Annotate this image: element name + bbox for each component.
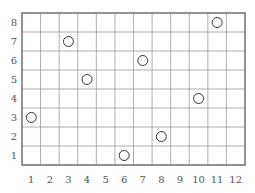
x-axis-tick-labels: 123456789101112 bbox=[28, 174, 242, 185]
y-tick-label: 7 bbox=[11, 36, 17, 47]
data-point-marker bbox=[26, 113, 36, 123]
x-tick-label: 1 bbox=[28, 174, 34, 185]
x-tick-label: 7 bbox=[140, 174, 146, 185]
data-point-marker bbox=[194, 94, 204, 104]
x-tick-label: 5 bbox=[102, 174, 108, 185]
x-tick-label: 6 bbox=[121, 174, 127, 185]
y-axis-tick-labels: 12345678 bbox=[11, 17, 17, 161]
data-point-marker bbox=[212, 18, 222, 28]
scatter-chart: 123456789101112 12345678 bbox=[0, 0, 255, 193]
data-point-marker bbox=[156, 132, 166, 142]
data-point-marker bbox=[63, 37, 73, 47]
x-tick-label: 10 bbox=[192, 174, 205, 185]
data-point-marker bbox=[82, 75, 92, 85]
data-point-marker bbox=[138, 56, 148, 66]
x-tick-label: 2 bbox=[47, 174, 53, 185]
x-tick-label: 8 bbox=[158, 174, 164, 185]
y-tick-label: 1 bbox=[11, 150, 17, 161]
y-tick-label: 4 bbox=[11, 93, 17, 104]
y-tick-label: 5 bbox=[11, 74, 17, 85]
x-tick-label: 4 bbox=[84, 174, 90, 185]
x-tick-label: 3 bbox=[65, 174, 71, 185]
x-tick-label: 11 bbox=[211, 174, 224, 185]
y-tick-label: 3 bbox=[11, 112, 17, 123]
x-tick-label: 9 bbox=[177, 174, 183, 185]
y-tick-label: 6 bbox=[11, 55, 17, 66]
data-point-marker bbox=[119, 151, 129, 161]
y-tick-label: 2 bbox=[11, 131, 17, 142]
y-tick-label: 8 bbox=[11, 17, 17, 28]
x-tick-label: 12 bbox=[229, 174, 242, 185]
grid-lines bbox=[22, 13, 245, 165]
